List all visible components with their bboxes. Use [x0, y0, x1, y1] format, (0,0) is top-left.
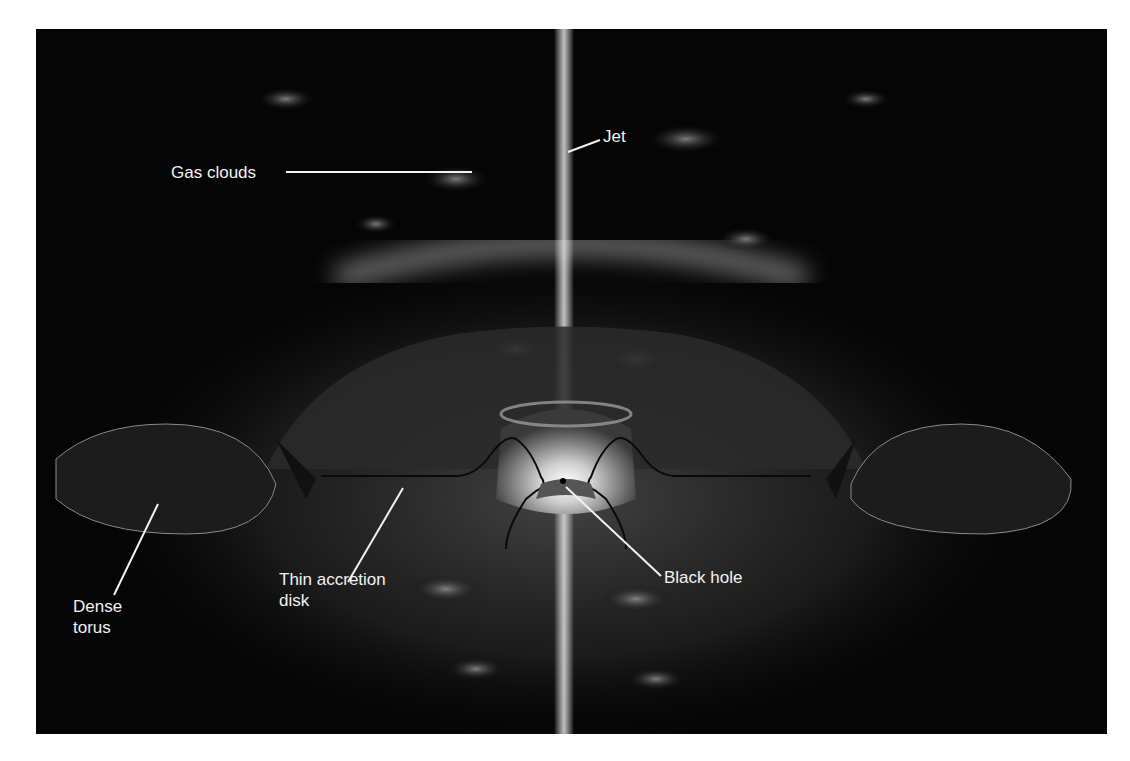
- label-dense-torus-1: Dense: [73, 597, 122, 617]
- label-thin-disk-1: Thin accretion: [279, 570, 386, 590]
- agn-illustration: [36, 29, 1107, 734]
- label-gas-clouds: Gas clouds: [171, 163, 256, 183]
- agn-diagram: Gas clouds Jet Dense torus Thin accretio…: [36, 29, 1107, 734]
- label-dense-torus-2: torus: [73, 618, 111, 638]
- black-hole: [560, 478, 566, 484]
- label-thin-disk-2: disk: [279, 591, 309, 611]
- label-jet: Jet: [603, 127, 626, 147]
- label-black-hole: Black hole: [664, 568, 742, 588]
